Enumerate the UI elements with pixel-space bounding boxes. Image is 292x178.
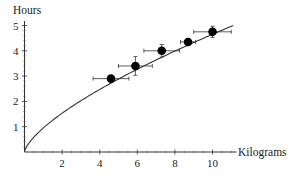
point-marker bbox=[107, 74, 116, 83]
y-tick-label: 1 bbox=[13, 121, 19, 133]
x-tick-label: 10 bbox=[207, 157, 219, 169]
data-point bbox=[144, 44, 180, 57]
y-axis-title: Hours bbox=[13, 4, 42, 16]
x-tick-label: 6 bbox=[135, 157, 141, 169]
point-marker bbox=[131, 62, 140, 71]
data-point bbox=[119, 57, 153, 76]
y-tick-label: 3 bbox=[13, 70, 19, 82]
chart-canvas: 246810 12345 Kilograms Hours bbox=[0, 0, 292, 178]
data-point bbox=[181, 38, 196, 47]
data-points bbox=[93, 26, 231, 83]
y-tick-label: 5 bbox=[13, 20, 19, 32]
x-tick-label: 2 bbox=[59, 157, 65, 169]
point-marker bbox=[208, 28, 217, 37]
data-point bbox=[194, 26, 232, 37]
y-tick-label: 2 bbox=[13, 95, 19, 107]
y-tick-label: 4 bbox=[13, 45, 19, 57]
x-tick-label: 8 bbox=[172, 157, 178, 169]
point-marker bbox=[184, 38, 193, 47]
fit-curve bbox=[25, 25, 234, 152]
x-axis-title: Kilograms bbox=[238, 146, 287, 159]
x-tick-label: 4 bbox=[97, 157, 103, 169]
point-marker bbox=[157, 47, 166, 56]
data-point bbox=[93, 74, 129, 83]
axes: 246810 12345 Kilograms Hours bbox=[13, 4, 287, 169]
